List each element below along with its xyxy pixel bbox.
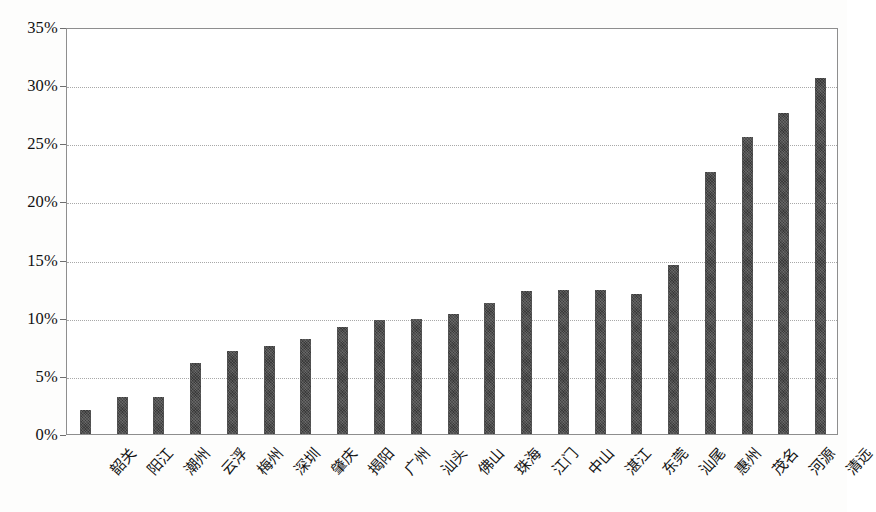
x-tick-label: 韶关 [105,442,141,479]
x-tick-label: 惠州 [730,442,766,479]
bar [190,363,201,434]
y-tick-label: 10% [0,309,58,329]
bar [153,397,164,434]
bar [227,351,238,434]
bar [300,339,311,434]
y-tick-label: 20% [0,192,58,212]
bar [411,319,422,434]
x-tick-label: 揭阳 [362,442,398,479]
x-tick-label: 湛江 [619,442,655,479]
bar [80,410,91,434]
bar [117,397,128,434]
bars-series [67,29,837,434]
bar [595,290,606,434]
x-tick-label: 江门 [546,442,582,479]
x-axis: 韶关阳江潮州云浮梅州深圳肇庆揭阳广州汕头佛山珠海江门中山湛江东莞汕尾惠州茂名河源… [66,436,838,512]
bar [374,320,385,434]
y-tick-label: 35% [0,18,58,38]
y-tick-label: 15% [0,251,58,271]
bar [337,327,348,434]
x-tick-label: 河源 [803,442,839,479]
y-tick-label: 30% [0,76,58,96]
x-tick-label: 云浮 [215,442,251,479]
x-tick-label: 中山 [583,442,619,479]
bar [521,291,532,434]
x-tick-label: 汕尾 [693,442,729,479]
x-tick-label: 汕头 [435,442,471,479]
y-tick-label: 0% [0,425,58,445]
bar [631,294,642,434]
bar [484,303,495,434]
bar [448,314,459,434]
bar [742,137,753,434]
plot-area [66,28,838,435]
y-tick-label: 5% [0,367,58,387]
x-tick-label: 珠海 [509,442,545,479]
bar [705,172,716,434]
bar [264,346,275,434]
x-tick-label: 佛山 [472,442,508,479]
y-tick-label: 25% [0,134,58,154]
bar [815,78,826,434]
bar [778,113,789,434]
x-tick-label: 深圳 [288,442,324,479]
x-tick-label: 潮州 [178,442,214,479]
bar [558,290,569,434]
x-tick-label: 广州 [399,442,435,479]
x-tick-label: 东莞 [656,442,692,479]
x-tick-label: 梅州 [252,442,288,479]
x-tick-label: 茂名 [766,442,802,479]
bar [668,265,679,434]
x-tick-label: 肇庆 [325,442,361,479]
x-tick-label: 阳江 [141,442,177,479]
x-tick-label: 清远 [840,442,876,479]
